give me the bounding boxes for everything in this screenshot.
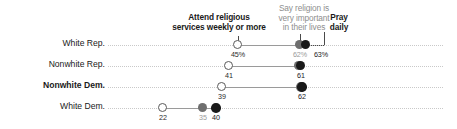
row-label-nonwhite-dem: Nonwhite Dem. bbox=[0, 80, 105, 90]
data-point-pray[interactable] bbox=[211, 103, 221, 113]
row-label-nonwhite-rep: Nonwhite Rep. bbox=[0, 59, 105, 69]
row-connector bbox=[163, 108, 215, 109]
data-point-pray[interactable] bbox=[296, 61, 305, 70]
dot-plot-chart: Attend religious services weekly or more… bbox=[0, 0, 457, 129]
data-point-attend[interactable] bbox=[217, 82, 226, 91]
data-label-attend: 22 bbox=[150, 113, 176, 122]
table-row: White Rep. 45% 62% 63% bbox=[0, 37, 457, 58]
data-point-pray[interactable] bbox=[301, 40, 310, 49]
row-label-white-dem: White Dem. bbox=[0, 101, 105, 111]
data-label-pray: 40 bbox=[203, 113, 229, 122]
series-header-pray-line2: daily bbox=[316, 23, 362, 33]
table-row: Nonwhite Rep. 41 61 bbox=[0, 58, 457, 79]
data-point-important[interactable] bbox=[198, 103, 207, 112]
table-row: Nonwhite Dem. 39 62 bbox=[0, 79, 457, 100]
row-connector bbox=[222, 87, 303, 88]
series-header-attend: Attend religious services weekly or more bbox=[163, 13, 275, 32]
data-point-attend[interactable] bbox=[158, 103, 167, 112]
data-point-attend[interactable] bbox=[233, 40, 242, 49]
row-connector bbox=[229, 66, 302, 67]
series-header-attend-line2: services weekly or more bbox=[163, 23, 275, 33]
data-point-pray[interactable] bbox=[297, 82, 307, 92]
row-label-white-rep: White Rep. bbox=[0, 38, 105, 48]
data-point-attend[interactable] bbox=[224, 61, 233, 70]
table-row: White Dem. 22 35 40 bbox=[0, 100, 457, 121]
series-header-pray: Pray daily bbox=[316, 13, 362, 32]
